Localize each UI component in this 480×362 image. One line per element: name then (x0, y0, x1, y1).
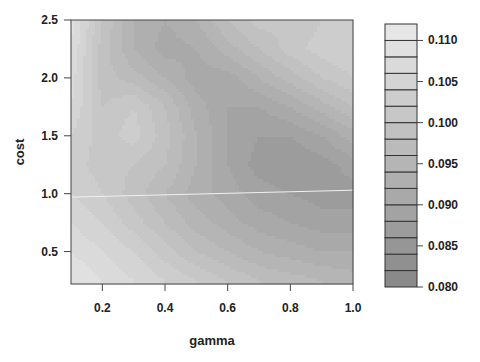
colorbar-band (385, 139, 417, 155)
y-tick-label: 1.0 (41, 187, 58, 201)
colorbar-tick-label: 0.090 (428, 198, 458, 212)
colorbar-tick-label: 0.100 (428, 116, 458, 130)
y-tick-label: 0.5 (41, 245, 58, 259)
colorbar-tick-label: 0.080 (428, 280, 458, 294)
colorbar-tick-label: 0.105 (428, 75, 458, 89)
x-tick-label: 0.2 (94, 301, 111, 315)
x-axis: 0.20.40.60.81.0 (94, 284, 362, 315)
colorbar-band (385, 156, 417, 172)
y-axis-label: cost (12, 138, 27, 165)
colorbar-band (385, 188, 417, 204)
colorbar-band (385, 221, 417, 237)
contour-chart: 0.20.40.60.81.0 0.51.01.52.02.5 gamma co… (0, 0, 480, 362)
colorbar-tick-label: 0.110 (428, 33, 458, 47)
colorbar-band (385, 205, 417, 221)
x-tick-label: 0.8 (282, 301, 299, 315)
x-tick-label: 0.6 (219, 301, 236, 315)
x-axis-label: gamma (189, 333, 235, 348)
x-tick-label: 0.4 (157, 301, 174, 315)
colorbar-tick-label: 0.095 (428, 157, 458, 171)
colorbar-tick-label: 0.085 (428, 239, 458, 253)
colorbar-band (385, 73, 417, 89)
colorbar-band (385, 172, 417, 188)
colorbar-band (385, 123, 417, 139)
x-tick-label: 1.0 (345, 301, 362, 315)
colorbar-band (385, 271, 417, 287)
colorbar-band (385, 90, 417, 106)
colorbar-axis: 0.1100.1050.1000.0950.0900.0850.080 (417, 33, 458, 294)
y-axis: 0.51.01.52.02.5 (41, 13, 71, 259)
colorbar-band (385, 24, 417, 40)
colorbar-band (385, 40, 417, 56)
colorbar-band (385, 57, 417, 73)
colorbar-legend (385, 24, 417, 287)
contour-plot-area (71, 20, 353, 284)
y-tick-label: 2.0 (41, 71, 58, 85)
colorbar-band (385, 238, 417, 254)
y-tick-label: 1.5 (41, 129, 58, 143)
colorbar-band (385, 106, 417, 122)
y-tick-label: 2.5 (41, 13, 58, 27)
colorbar-band (385, 254, 417, 270)
